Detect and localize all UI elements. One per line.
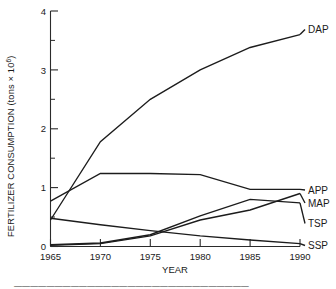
y-ticklabel-2: 2 (41, 123, 46, 134)
y-ticklabel-3: 3 (41, 65, 46, 76)
x-ticklabel-1975: 1975 (140, 251, 161, 262)
caption-strip: ————————————————————————————— (0, 281, 336, 289)
series-label-SSP: SSP (308, 240, 328, 251)
leader-line-MAP (300, 194, 305, 203)
x-ticklabel-1980: 1980 (190, 251, 211, 262)
series-line-MAP (51, 194, 301, 246)
caption-partial-line: ————————————————————————————— (0, 281, 336, 289)
leader-line-APP (300, 189, 305, 190)
leader-line-TSP (300, 203, 305, 224)
y-ticklabel-4: 4 (41, 6, 46, 17)
series-label-TSP: TSP (308, 218, 328, 229)
leader-line-DAP (300, 30, 305, 35)
series-line-APP (51, 174, 301, 202)
series-label-DAP: DAP (308, 24, 329, 35)
series-label-APP: APP (308, 185, 328, 196)
fertilizer-consumption-line-chart: FERTILIZER CONSUMPTION (tons × 106) 4 3 … (0, 0, 336, 289)
x-ticklabel-1970: 1970 (90, 251, 111, 262)
leader-line-SSP (300, 244, 305, 246)
y-axis-title: FERTILIZER CONSUMPTION (tons × 106) (5, 56, 16, 237)
series-label-MAP: MAP (308, 198, 330, 209)
y-ticklabel-1: 1 (41, 182, 46, 193)
x-axis-title: YEAR (162, 264, 188, 275)
x-ticklabel-1965: 1965 (40, 251, 61, 262)
x-ticklabel-1990: 1990 (289, 251, 310, 262)
series-line-DAP (51, 35, 301, 220)
series-line-SSP (51, 218, 301, 243)
x-ticklabel-1985: 1985 (240, 251, 261, 262)
chart-canvas: FERTILIZER CONSUMPTION (tons × 106) 4 3 … (0, 0, 336, 289)
